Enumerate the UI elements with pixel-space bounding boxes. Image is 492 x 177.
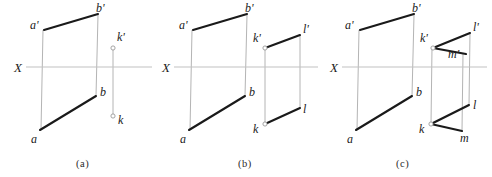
figure-container: Xa'b'abk'k(a)Xa'b'abk'l'kl(b)Xa'b'abk'l'… (0, 0, 492, 177)
segment-k-prime-l-prime-c (433, 33, 470, 48)
segment-a-b-b (189, 96, 245, 130)
segment-projector-l-c (469, 33, 470, 105)
segment-projector-k-c (431, 48, 432, 124)
label-m-c: m (460, 131, 469, 145)
segment-k-m-c (431, 124, 462, 131)
label-k-prime-c: k' (420, 31, 428, 45)
panel-caption-b: (b) (238, 158, 252, 170)
marker-point-k-a (111, 114, 115, 118)
x-axis-label-a: X (13, 60, 23, 75)
segment-a-b-c (356, 96, 412, 130)
panel-a: Xa'b'abk'k(a) (13, 1, 152, 170)
label-a-prime-a: a' (30, 18, 39, 32)
label-b-prime-a: b' (96, 1, 105, 15)
segment-projector-b-c (412, 15, 414, 96)
projection-figure: Xa'b'abk'k(a)Xa'b'abk'l'kl(b)Xa'b'abk'l'… (0, 0, 492, 177)
segment-a-prime-b-prime-c (360, 14, 414, 30)
segment-k-prime-l-prime-b (265, 35, 300, 48)
label-k-prime-a: k' (117, 30, 125, 44)
label-a-prime-b: a' (179, 18, 188, 32)
marker-point-k-prime-b (263, 46, 267, 50)
panel-caption-a: (a) (76, 158, 89, 170)
segment-a-b-a (40, 96, 96, 130)
label-b-prime-b: b' (245, 1, 254, 15)
segment-a-prime-b-prime-a (44, 14, 98, 30)
label-a-b: a (180, 132, 186, 146)
label-a-a: a (31, 132, 37, 146)
marker-point-k-b (263, 122, 267, 126)
label-k-c: k (419, 122, 425, 136)
label-a-prime-c: a' (345, 18, 354, 32)
label-k-a: k (118, 113, 124, 127)
label-b-a: b (100, 85, 106, 99)
label-l-b: l (303, 102, 307, 116)
label-k-prime-b: k' (253, 31, 261, 45)
segment-projector-a-c (357, 30, 359, 130)
segment-a-prime-b-prime-b (193, 14, 247, 30)
segment-projector-a-a (41, 30, 43, 130)
label-b-prime-c: b' (412, 1, 421, 15)
panel-b: Xa'b'abk'l'kl(b) (161, 1, 318, 170)
panel-caption-c: (c) (396, 158, 409, 170)
label-l-prime-b: l' (303, 22, 309, 36)
label-l-prime-c: l' (473, 20, 479, 34)
label-b-b: b (249, 85, 255, 99)
marker-point-k-c (429, 122, 433, 126)
segment-projector-a-b (190, 30, 192, 130)
label-l-c: l (473, 98, 477, 112)
segment-projector-b-b (245, 15, 247, 96)
panel-c: Xa'b'abk'l'm'klm(c) (329, 1, 487, 170)
x-axis-label-c: X (329, 60, 339, 75)
marker-point-k-prime-c (431, 46, 435, 50)
label-b-c: b (416, 85, 422, 99)
marker-point-k-prime-a (111, 46, 115, 50)
segment-k-l-c (431, 105, 469, 124)
x-axis-label-b: X (161, 60, 171, 75)
label-a-c: a (347, 132, 353, 146)
label-k-b: k (253, 122, 259, 136)
label-m-prime-c: m' (448, 47, 460, 61)
segment-k-l-b (265, 108, 300, 124)
segment-projector-b-a (96, 15, 98, 96)
segment-projector-m-c (462, 54, 463, 131)
